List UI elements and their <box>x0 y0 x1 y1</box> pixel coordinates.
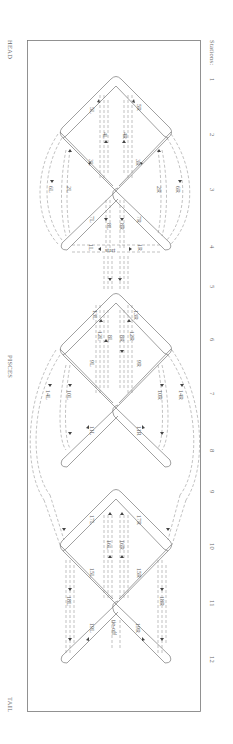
station-10: 10 <box>209 543 216 550</box>
label-3R: 3R <box>135 159 141 166</box>
figure-title: PISCES <box>7 355 14 378</box>
label-12R: 12R <box>129 331 135 341</box>
station-9: 9 <box>209 490 216 494</box>
label-16L: 16L <box>106 540 112 550</box>
station-4: 4 <box>209 245 216 249</box>
label-1L: 1L <box>88 244 94 251</box>
label-6L: 6L <box>48 186 54 193</box>
label-5R: 5R <box>136 104 142 111</box>
label-8L: 8L <box>106 223 112 230</box>
label-11R: 11R <box>136 426 142 436</box>
label-8R-2: 8R <box>119 335 125 342</box>
label-12L: 12L <box>97 331 103 341</box>
stations-label: Stations: <box>209 40 216 65</box>
label-13R: 13R <box>133 310 139 320</box>
station-6: 6 <box>209 338 216 342</box>
diamond-3: 17L 17R 16L 16R 15L 15R 18L 18R 19L 19R … <box>60 490 172 664</box>
label-6R: 6R <box>175 186 181 193</box>
label-17R: 17R <box>136 515 142 525</box>
label-8L-2: 8L <box>107 335 113 342</box>
tail-label: TAIL <box>7 697 14 712</box>
label-4R: 4R <box>122 132 128 139</box>
label-8R: 8R <box>119 223 125 230</box>
head-label: HEAD <box>7 40 14 59</box>
station-11: 11 <box>209 600 216 607</box>
label-19L: 19L <box>89 623 95 633</box>
start-marker: start <box>105 247 116 253</box>
label-1R: 1R <box>137 244 143 251</box>
label-9L: 9L <box>89 360 95 367</box>
label-17L: 17L <box>89 515 95 525</box>
station-1: 1 <box>209 78 216 82</box>
station-2: 2 <box>209 133 216 137</box>
label-4L: 4L <box>102 132 108 139</box>
figure-frame <box>28 41 201 712</box>
diamond-1: 5L 5R 4L 4R 3L 3R 6L 2L 2R 6R 7L 7R 8L 8… <box>40 77 190 282</box>
label-10L: 10L <box>66 390 72 400</box>
label-18R: 18R <box>159 596 165 606</box>
station-5: 5 <box>209 285 216 289</box>
diamond-2: 13L 13R 12L 8L 8R 12R 9L 9R 14L 10L 10R … <box>30 294 199 501</box>
station-8: 8 <box>209 449 216 453</box>
label-18L: 18L <box>66 596 72 606</box>
label-15R: 15R <box>136 568 142 578</box>
label-7L: 7L <box>89 216 95 223</box>
label-10R: 10R <box>157 390 163 400</box>
label-14L: 14L <box>45 390 51 400</box>
label-2L: 2L <box>66 186 72 193</box>
station-12: 12 <box>209 656 216 663</box>
label-2R: 2R <box>156 186 162 193</box>
label-11L: 11L <box>89 426 95 436</box>
label-3L: 3L <box>88 159 94 166</box>
pisces-diagram: 5L 5R 4L 4R 3L 3R 6L 2L 2R 6R 7L 7R 8L 8… <box>0 0 233 744</box>
station-7: 7 <box>209 392 216 396</box>
label-19R: 19R <box>135 623 141 633</box>
label-13L: 13L <box>92 310 98 320</box>
label-7R: 7R <box>136 216 142 223</box>
tie-off-marker: tie-off <box>111 620 117 635</box>
label-14R: 14R <box>178 390 184 400</box>
station-3: 3 <box>209 188 216 192</box>
label-16R: 16R <box>119 540 125 550</box>
label-15L: 15L <box>89 568 95 578</box>
label-9R: 9R <box>136 360 142 367</box>
label-5L: 5L <box>89 107 95 114</box>
